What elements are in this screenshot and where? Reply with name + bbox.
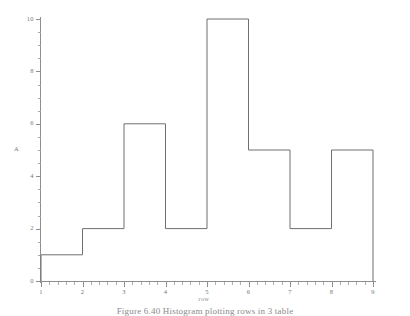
- histogram-bars: [0, 0, 410, 316]
- histogram-outline: [41, 19, 373, 281]
- figure-caption: Figure 6.40 Histogram plotting rows in 3…: [0, 306, 410, 316]
- figure-container: 0246810 123456789 A row Figure 6.40 Hist…: [0, 0, 410, 316]
